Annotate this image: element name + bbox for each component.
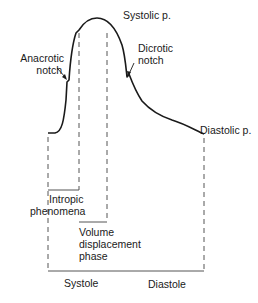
diastole-label: Diastole	[148, 278, 186, 290]
intropic-line-2: phenomena	[30, 205, 85, 217]
intropic-label: Intropic phenomena	[30, 193, 85, 217]
dicrotic-line-1: Dicrotic	[138, 42, 173, 54]
diastolic-pressure-label: Diastolic p.	[200, 124, 251, 136]
volume-line-1: Volume	[79, 226, 141, 238]
anacrotic-notch-label: Anacrotic notch	[8, 52, 64, 76]
dicrotic-line-2: notch	[138, 54, 173, 66]
intropic-line-1: Intropic	[30, 193, 85, 205]
volume-line-2: displacement	[79, 238, 141, 250]
volume-displacement-label: Volume displacement phase	[79, 226, 141, 262]
anacrotic-line-2: notch	[8, 64, 64, 76]
anacrotic-line-1: Anacrotic	[8, 52, 64, 64]
dicrotic-notch-label: Dicrotic notch	[138, 42, 173, 66]
systolic-peak-label: Systolic p.	[123, 9, 171, 21]
volume-line-3: phase	[79, 250, 141, 262]
pressure-curve	[48, 18, 204, 134]
systole-label: Systole	[64, 277, 98, 289]
